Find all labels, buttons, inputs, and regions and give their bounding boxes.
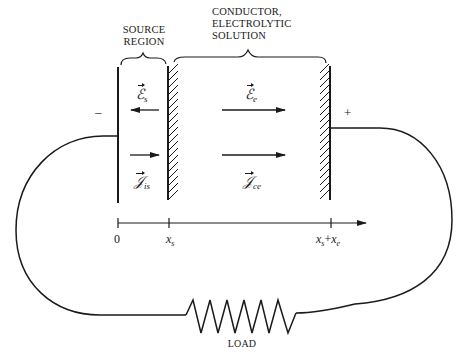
axis-label-xs-plus-xe: xs+xe xyxy=(316,232,340,248)
conductor-field-label: ℰe xyxy=(245,86,257,104)
source-field-symbol: ℰ xyxy=(136,86,144,103)
external-wire-right xyxy=(296,128,452,313)
circuit-diagram xyxy=(0,0,464,361)
source-region-label-line2: REGION xyxy=(118,36,170,48)
conductor-current-symbol: 𝒥 xyxy=(243,174,253,190)
source-current-label: 𝒥is xyxy=(134,174,150,191)
source-current-symbol: 𝒥 xyxy=(134,174,144,190)
axis-label-0: 0 xyxy=(114,232,120,247)
positive-electrode xyxy=(320,64,330,200)
conductor-region-label-line2: ELECTROLYTIC xyxy=(212,18,292,30)
conductor-region-label-line3: SOLUTION xyxy=(212,30,292,42)
source-region-label: SOURCE REGION xyxy=(118,24,170,48)
conductor-region-brace xyxy=(174,50,326,63)
negative-terminal-sign: – xyxy=(95,104,102,120)
load-label: LOAD xyxy=(222,338,262,350)
conductor-region-label: CONDUCTOR, ELECTROLYTIC SOLUTION xyxy=(212,6,292,42)
source-conductor-interface xyxy=(168,64,178,200)
load-resistor xyxy=(186,300,296,333)
conductor-current-label: 𝒥ce xyxy=(243,174,261,191)
external-wire-left xyxy=(16,136,186,315)
source-field-subscript: s xyxy=(144,94,148,104)
conductor-region-label-line1: CONDUCTOR, xyxy=(212,6,292,18)
source-region-brace xyxy=(121,53,166,65)
conductor-current-subscript: ce xyxy=(253,181,261,191)
conductor-field-subscript: e xyxy=(253,94,257,104)
source-region-label-line1: SOURCE xyxy=(118,24,170,36)
source-field-label: ℰs xyxy=(136,86,148,104)
positive-terminal-sign: + xyxy=(344,105,351,121)
conductor-field-symbol: ℰ xyxy=(245,86,253,103)
axis-label-xs: xs xyxy=(166,232,174,248)
axis-label-sub2: e xyxy=(337,239,341,248)
axis-label-xs-sub: s xyxy=(171,239,174,248)
source-current-subscript: is xyxy=(144,181,150,191)
